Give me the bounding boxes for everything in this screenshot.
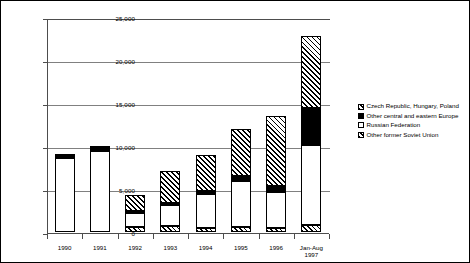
y-tick-label: 10,000 <box>115 145 135 151</box>
bar-segment <box>196 155 216 190</box>
bar-1990 <box>55 155 75 232</box>
bar-segment <box>90 151 110 232</box>
bar-segment <box>125 195 145 211</box>
y-tick-mark <box>43 105 47 106</box>
bar-segment <box>160 171 180 203</box>
bar-segment <box>90 148 110 151</box>
y-tick-mark <box>43 191 47 192</box>
bar-1996 <box>266 116 286 232</box>
x-tick-mark <box>294 234 295 239</box>
bar-segment <box>196 191 216 194</box>
y-tick-label: 5,000 <box>119 188 135 194</box>
legend-item: Other former Soviet Union <box>358 130 459 139</box>
x-tick-mark <box>329 234 330 239</box>
y-tick-mark <box>43 19 47 20</box>
bar-segment <box>55 154 75 156</box>
legend-swatch-icon <box>358 113 364 119</box>
gridline <box>48 105 330 106</box>
bar-segment <box>90 146 110 148</box>
gridline <box>48 62 330 63</box>
legend-item: Russian Federation <box>358 121 459 130</box>
bar-segment <box>266 192 286 228</box>
bar-1991 <box>90 147 110 232</box>
bar-segment <box>301 145 321 225</box>
x-tick-mark <box>153 234 154 239</box>
bar-segment <box>55 158 75 232</box>
bar-segment <box>231 129 251 176</box>
y-tick-label: 20,000 <box>115 59 135 65</box>
bar-1994 <box>196 155 216 232</box>
bar-segment <box>301 108 321 145</box>
legend-item: Czech Republic, Hungary, Poland <box>358 102 459 111</box>
bar-1993 <box>160 171 180 232</box>
bar-segment <box>231 176 251 181</box>
x-tick-mark <box>223 234 224 239</box>
x-tick-mark <box>82 234 83 239</box>
legend-swatch-icon <box>358 104 364 110</box>
x-tick-mark <box>188 234 189 239</box>
bar-segment <box>196 194 216 228</box>
bar-segment <box>266 116 286 186</box>
legend-label: Other central and eastern Europe <box>367 113 459 120</box>
bar-1995 <box>231 129 251 232</box>
bar-segment <box>55 156 75 159</box>
bar-segment <box>125 211 145 213</box>
bar-segment <box>160 203 180 205</box>
bar-Jan-Aug-1997 <box>301 36 321 232</box>
bar-segment <box>160 226 180 232</box>
y-tick-label: 25,000 <box>115 16 135 22</box>
bar-segment <box>301 225 321 232</box>
bar-1992 <box>125 195 145 232</box>
bar-segment <box>196 228 216 232</box>
x-tick-label: Jan-Aug 1997 <box>276 244 347 259</box>
bar-segment <box>301 36 321 108</box>
chart-legend: Czech Republic, Hungary, PolandOther cen… <box>358 102 459 140</box>
y-tick-mark <box>43 62 47 63</box>
y-tick-mark <box>43 148 47 149</box>
x-tick-mark <box>118 234 119 239</box>
bar-segment <box>266 186 286 193</box>
x-tick-mark <box>259 234 260 239</box>
legend-item: Other central and eastern Europe <box>358 111 459 120</box>
y-tick-label: 15,000 <box>115 102 135 108</box>
bar-segment <box>266 228 286 232</box>
bar-segment <box>125 227 145 232</box>
legend-swatch-icon <box>358 122 364 128</box>
x-tick-mark <box>47 234 48 239</box>
bar-segment <box>160 205 180 225</box>
bar-segment <box>231 227 251 232</box>
bar-segment <box>231 181 251 227</box>
legend-swatch-icon <box>358 132 364 138</box>
legend-label: Russian Federation <box>367 122 421 129</box>
bar-segment <box>125 213 145 227</box>
chart-figure: 05,00010,00015,00020,00025,000 199019911… <box>0 0 470 263</box>
legend-label: Czech Republic, Hungary, Poland <box>367 103 459 110</box>
gridline <box>48 19 330 20</box>
legend-label: Other former Soviet Union <box>367 132 439 139</box>
